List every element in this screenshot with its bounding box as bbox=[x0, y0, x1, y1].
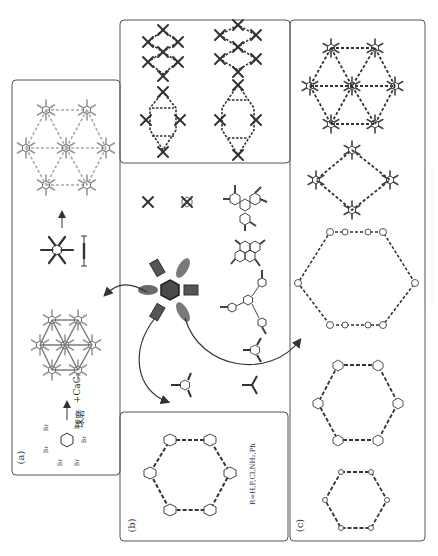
central-hub-icon bbox=[138, 256, 198, 324]
br-label-6: Br bbox=[73, 422, 80, 429]
triangular-network-product bbox=[40, 320, 92, 370]
br-label-5: Br bbox=[80, 436, 87, 443]
triangular-network-light bbox=[26, 110, 106, 185]
panel-c bbox=[290, 20, 425, 541]
hexabromobenzene-icon bbox=[61, 433, 73, 447]
reaction-arrows bbox=[105, 285, 300, 402]
figure-canvas bbox=[0, 0, 438, 556]
br-label-2: Br bbox=[42, 446, 49, 453]
br-label-3: Br bbox=[56, 459, 63, 466]
arrow-to-b-icon bbox=[139, 318, 168, 402]
panel-top bbox=[120, 20, 290, 163]
panel-b-label: (b) bbox=[126, 518, 137, 532]
panel-a bbox=[12, 80, 120, 475]
panel-a-label: (a) bbox=[15, 451, 26, 465]
panel-c-label: (c) bbox=[294, 519, 305, 532]
br-label-4: Br bbox=[73, 459, 80, 466]
hexaethynylbenzene-icon bbox=[41, 237, 73, 263]
panel-b bbox=[120, 412, 288, 541]
br-label-1: Br bbox=[42, 424, 49, 431]
substituent-note: R=H,F,Cl,NH₂,Ph bbox=[249, 443, 257, 505]
linker-icon bbox=[81, 236, 87, 266]
arrow-to-c-icon bbox=[185, 318, 300, 365]
reagent-label: +CaC₂ bbox=[72, 373, 82, 403]
